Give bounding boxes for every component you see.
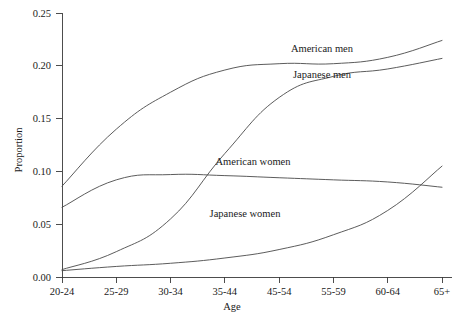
chart-canvas: 0.000.050.100.150.200.25 Proportion 20-2…	[0, 0, 462, 327]
y-tick-label: 0.25	[33, 8, 51, 19]
y-axis-title: Proportion	[13, 127, 24, 173]
x-axis-title: Age	[223, 301, 241, 312]
y-tick-label: 0.15	[33, 113, 51, 124]
x-tick-label: 25-29	[104, 286, 129, 297]
y-axis-ticks	[56, 13, 62, 277]
series-label: American men	[291, 43, 354, 54]
y-tick-label: 0.00	[33, 272, 51, 283]
series-label: Japanese women	[210, 208, 282, 219]
x-tick-label: 60-64	[375, 286, 400, 297]
x-axis: 20-2425-2930-3435-4445-5455-5960-6465+ A…	[50, 277, 452, 312]
y-tick-label: 0.20	[33, 60, 51, 71]
series-label: American women	[216, 156, 292, 167]
x-tick-label: 30-34	[158, 286, 183, 297]
series-annotations: American menJapanese menAmerican womenJa…	[210, 43, 354, 219]
x-tick-label: 20-24	[50, 286, 75, 297]
x-tick-label: 55-59	[321, 286, 346, 297]
x-tick-label: 45-54	[267, 286, 292, 297]
series-label: Japanese men	[293, 69, 352, 80]
y-tick-label: 0.10	[33, 166, 51, 177]
series-line	[62, 174, 442, 207]
x-tick-label: 35-44	[213, 286, 238, 297]
y-axis: 0.000.050.100.150.200.25 Proportion	[13, 8, 62, 283]
x-tick-label: 65+	[434, 286, 451, 297]
line-chart: 0.000.050.100.150.200.25 Proportion 20-2…	[0, 0, 462, 327]
x-axis-ticks	[62, 277, 442, 283]
y-axis-tick-labels: 0.000.050.100.150.200.25	[33, 8, 51, 283]
y-tick-label: 0.05	[33, 219, 51, 230]
x-axis-tick-labels: 20-2425-2930-3435-4445-5455-5960-6465+	[50, 286, 451, 297]
